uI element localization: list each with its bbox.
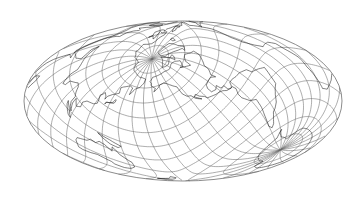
world-map — [0, 0, 362, 198]
map-container: World map – oblique Hammer-Aitoff projec… — [0, 0, 362, 198]
